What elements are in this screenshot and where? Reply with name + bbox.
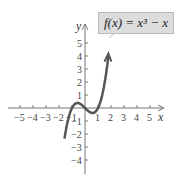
svg-text:3: 3 [77,64,82,75]
svg-text:5: 5 [77,38,82,49]
svg-text:−3: −3 [40,112,51,123]
x-axis-label: x [157,110,164,124]
svg-text:−2: −2 [71,129,82,140]
svg-text:4: 4 [134,112,139,123]
svg-text:−4: −4 [71,155,82,166]
svg-text:5: 5 [147,112,152,123]
svg-text:1: 1 [95,112,100,123]
svg-text:−3: −3 [71,142,82,153]
y-axis-label: y [75,19,82,33]
svg-text:−4: −4 [27,112,38,123]
function-label: f(x) = x³ − x [98,12,174,34]
svg-text:−1: −1 [71,116,82,127]
svg-text:4: 4 [77,51,82,62]
svg-text:1: 1 [77,90,82,101]
svg-text:2: 2 [77,77,82,88]
svg-text:3: 3 [121,112,126,123]
tick-labels: −5−4−3−2−112345−4−3−2−112345 [14,38,152,166]
svg-text:−5: −5 [14,112,25,123]
svg-text:−2: −2 [53,112,64,123]
svg-text:2: 2 [108,112,113,123]
axes [8,24,164,174]
